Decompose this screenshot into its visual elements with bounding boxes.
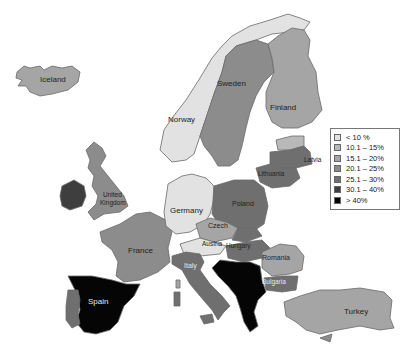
legend-label: 20.1 – 25% (346, 164, 384, 173)
label-lithuania: Lithuania (258, 170, 285, 177)
label-romania: Romania (262, 254, 290, 261)
label-sweden: Sweden (217, 79, 246, 88)
label-norway: Norway (168, 115, 195, 124)
legend-item: 30.1 – 40% (334, 185, 396, 196)
label-uk-line1: United (103, 191, 122, 198)
label-latvia: Latvia (304, 156, 322, 163)
label-italy: Italy (184, 262, 197, 270)
region-united-kingdom (86, 142, 128, 220)
label-hungary: Hungary (226, 242, 251, 250)
legend-swatch-icon (334, 144, 341, 151)
legend-item: 25.1 – 30% (334, 174, 396, 185)
legend-item: 20.1 – 25% (334, 164, 396, 175)
label-bulgaria: Bulgaria (262, 278, 286, 286)
legend-item: > 40% (334, 195, 396, 206)
label-france: France (128, 246, 153, 255)
region-turkey (284, 288, 394, 334)
label-czech: Czech (208, 222, 228, 229)
label-germany: Germany (170, 206, 203, 215)
label-spain: Spain (88, 297, 108, 306)
legend-label: 30.1 – 40% (346, 185, 384, 194)
legend-item: 10.1 – 15% (334, 143, 396, 154)
legend-label: < 10 % (346, 133, 370, 142)
legend-swatch-icon (334, 186, 341, 193)
legend-label: 15.1 – 20% (346, 154, 384, 163)
label-poland: Poland (232, 200, 254, 207)
map-legend: < 10 % 10.1 – 15% 15.1 – 20% 20.1 – 25% … (330, 128, 400, 210)
legend-label: 10.1 – 15% (346, 143, 384, 152)
label-finland: Finland (270, 103, 296, 112)
legend-item: < 10 % (334, 132, 396, 143)
region-corsica (176, 280, 180, 288)
label-turkey: Turkey (344, 307, 368, 316)
region-finland (266, 28, 322, 128)
legend-label: > 40% (346, 196, 367, 205)
region-cyprus (320, 334, 332, 342)
legend-item: 15.1 – 20% (334, 153, 396, 164)
region-portugal (66, 290, 80, 328)
legend-label: 25.1 – 30% (346, 175, 384, 184)
label-uk-line2: Kingdom (100, 199, 126, 207)
label-austria: Austria (202, 240, 223, 247)
legend-swatch-icon (334, 134, 341, 141)
legend-swatch-icon (334, 197, 341, 204)
label-iceland: Iceland (40, 75, 66, 84)
legend-swatch-icon (334, 155, 341, 162)
legend-swatch-icon (334, 165, 341, 172)
region-sicily (200, 314, 214, 324)
region-ireland (60, 180, 86, 210)
legend-swatch-icon (334, 176, 341, 183)
region-sardinia (174, 292, 180, 306)
